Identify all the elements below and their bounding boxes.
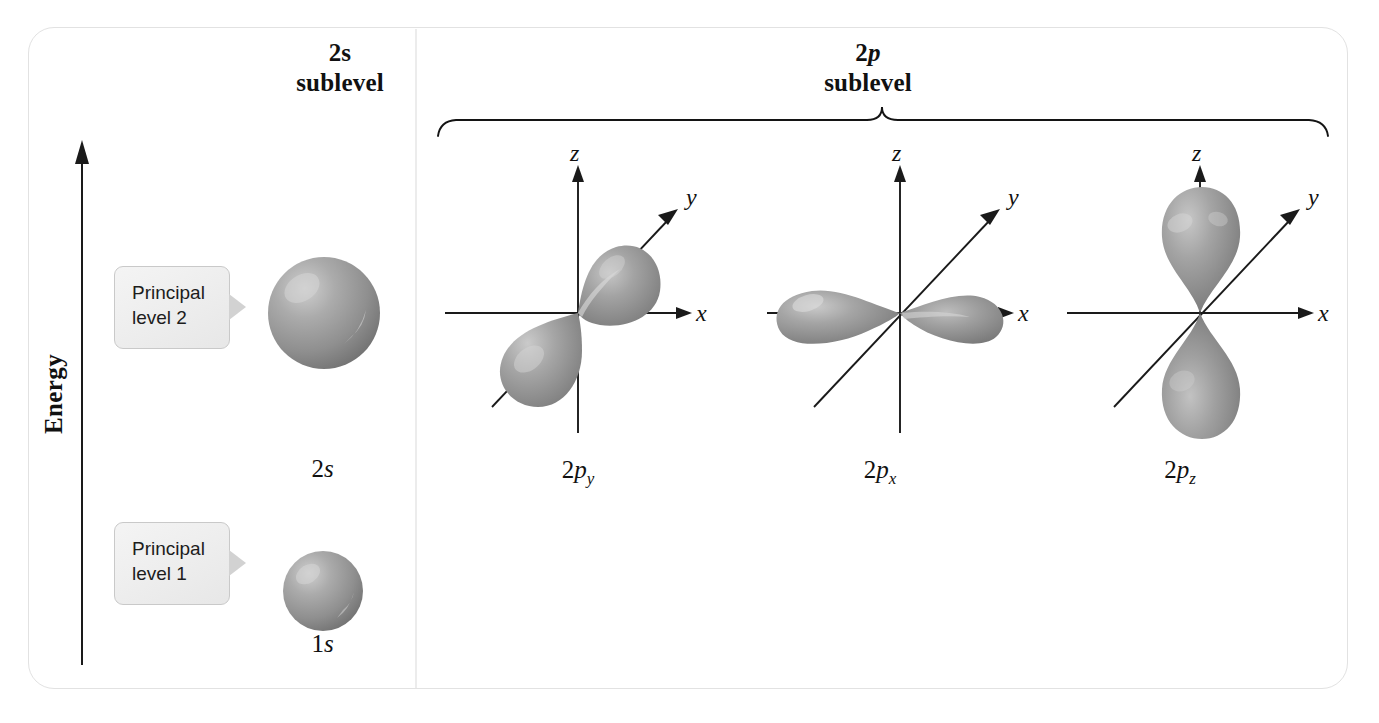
p-sublevel-bracket [430, 100, 1335, 140]
callout-level1-line2: level 1 [132, 561, 229, 586]
axis-letter-x-py: x [695, 300, 707, 326]
callout-level1-line1: Principal [132, 536, 229, 561]
callout-principal-level-1: Principal level 1 [114, 522, 230, 605]
orbital-label-1s: 1s [265, 630, 380, 658]
axis-letter-z-pz: z [1191, 145, 1202, 166]
orbital-energy-diagram: 2s sublevel 2p sublevel Energy Principal… [0, 0, 1379, 723]
orbital-label-2py: 2py [508, 456, 648, 489]
callout-level2-line2: level 2 [132, 305, 229, 330]
heading-2s-orbital: 2s [242, 38, 438, 68]
orbital-label-2s: 2s [265, 455, 380, 483]
axis-letter-z-px: z [891, 145, 902, 166]
orbital-shape-2pz: x y z [1052, 145, 1352, 455]
axis-letter-y-px: y [1006, 184, 1019, 210]
heading-2s-sublevel: 2s sublevel [242, 38, 438, 97]
axis-letter-z-py: z [569, 145, 580, 166]
callout-level1-pointer [229, 550, 246, 576]
orbital-shape-2s [240, 240, 405, 390]
heading-2p-sublevel: 2p sublevel [770, 38, 966, 97]
orbital-shape-2px: x y z [752, 145, 1052, 455]
axis-letter-x-pz: x [1317, 300, 1329, 326]
energy-axis-arrow [62, 140, 106, 665]
callout-principal-level-2: Principal level 2 [114, 266, 230, 349]
heading-2p-word: sublevel [770, 68, 966, 98]
panel-divider [415, 29, 417, 688]
heading-2p-orbital: 2p [770, 38, 966, 68]
axis-letter-x-px: x [1017, 300, 1029, 326]
orbital-shape-2py: x y z [430, 145, 730, 455]
orbital-label-2px: 2px [810, 456, 950, 489]
callout-level2-line1: Principal [132, 280, 229, 305]
heading-2s-word: sublevel [242, 68, 438, 98]
axis-letter-y-pz: y [1306, 184, 1319, 210]
orbital-label-2pz: 2pz [1110, 456, 1250, 489]
axis-letter-y-py: y [684, 184, 697, 210]
